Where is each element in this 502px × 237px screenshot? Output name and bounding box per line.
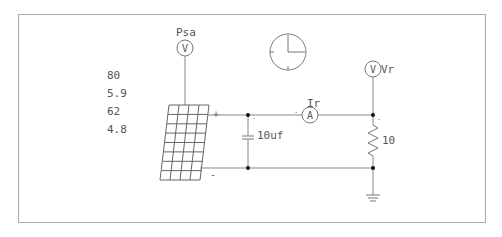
value-1: 80: [107, 70, 120, 82]
clock-icon[interactable]: [270, 34, 306, 70]
ground-icon: [366, 168, 380, 201]
node-top-right: [371, 113, 375, 117]
value-3: 62: [107, 106, 120, 118]
node-top-left: [246, 113, 250, 117]
capacitor[interactable]: [242, 115, 254, 168]
voltmeter-letter: V: [370, 64, 376, 75]
node-bottom-left: [246, 166, 250, 170]
solar-minus-label: -: [210, 169, 216, 180]
voltmeter-vr[interactable]: V: [365, 61, 381, 115]
capacitor-label: 10uf: [257, 130, 284, 142]
solar-panel[interactable]: [160, 105, 209, 180]
schematic-canvas: V + -: [0, 0, 502, 237]
ammeter-label: Ir: [307, 98, 320, 110]
resistor-polarity-dot: .: [377, 114, 381, 122]
voltmeter-letter: V: [182, 43, 188, 54]
capacitor-polarity-dot: .: [252, 113, 256, 121]
node-bottom-right: [371, 166, 375, 170]
ammeter-polarity-dot: .: [294, 107, 298, 115]
resistor-label: 10: [382, 135, 395, 147]
voltmeter-vr-label: Vr: [381, 64, 394, 76]
resistor[interactable]: [368, 115, 378, 168]
ammeter-letter: A: [307, 110, 313, 121]
value-4: 4.8: [107, 124, 127, 136]
schematic-svg: V + -: [0, 0, 502, 237]
voltmeter-psa-label: Psa: [176, 27, 196, 39]
value-2: 5.9: [107, 88, 127, 100]
voltmeter-psa[interactable]: V: [177, 40, 193, 105]
